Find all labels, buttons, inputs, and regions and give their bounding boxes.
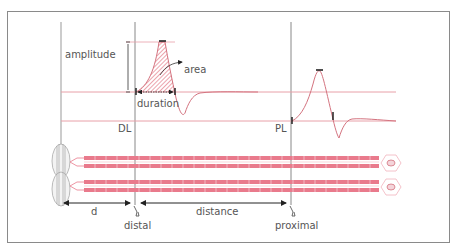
nerve-branch <box>70 158 84 166</box>
distal-label: distal <box>124 221 151 231</box>
nerve-fibers <box>84 156 379 192</box>
nerve-branch <box>70 182 84 190</box>
neuron-cell-body <box>381 179 401 195</box>
proximal-stimulator-icon <box>290 206 295 216</box>
amplitude-label: amplitude <box>65 50 116 60</box>
distal-stimulator-icon <box>134 206 139 216</box>
neuron-cell-body <box>381 155 401 171</box>
proximal-label: proximal <box>275 221 318 231</box>
duration-label: duration <box>137 99 179 109</box>
d-label: d <box>91 207 97 217</box>
pl-label: PL <box>275 124 287 134</box>
proximal-waveform <box>292 71 396 138</box>
distance-label: distance <box>196 207 238 217</box>
recording-electrode <box>52 144 70 206</box>
area-label: area <box>184 65 206 75</box>
dl-label: DL <box>118 124 131 134</box>
